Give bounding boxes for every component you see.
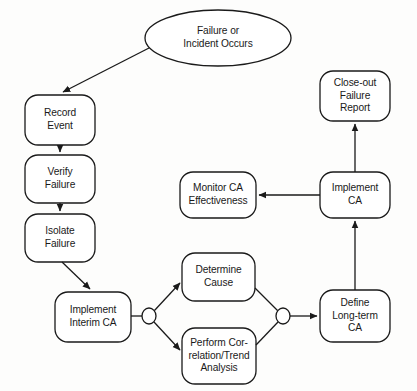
node-isolate-failure [25, 214, 95, 262]
connector-determine-cause-to-merge [255, 288, 278, 311]
merge-junction-node [276, 308, 290, 324]
node-perform-correlation-trend-analysis [182, 328, 256, 384]
node-record-event [25, 95, 95, 145]
connector-isolate-failure-to-implement-interim-ca [62, 262, 90, 289]
node-implement-ca [320, 172, 390, 218]
node-verify-failure [25, 155, 95, 203]
split-junction-node [142, 308, 156, 324]
node-determine-cause [182, 253, 255, 301]
flowchart-diagram: Failure or Incident Occurs Record Event … [0, 0, 417, 391]
connector-split-to-perform-correlation [154, 322, 180, 350]
connector-occurs-to-record-event [63, 48, 149, 92]
connector-perform-correlation-to-merge [256, 322, 278, 345]
node-close-out-failure-report [320, 71, 390, 121]
node-monitor-ca-effectiveness [180, 172, 256, 218]
diagram-canvas [0, 0, 417, 391]
node-failure-or-incident-occurs [145, 10, 291, 66]
node-define-long-term-ca [320, 290, 390, 342]
connector-split-to-determine-cause [154, 283, 180, 311]
node-implement-interim-ca [55, 292, 131, 342]
